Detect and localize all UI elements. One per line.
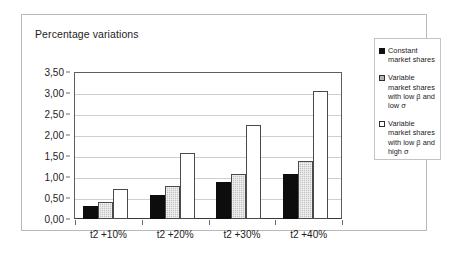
y-axis-tick-mark bbox=[66, 114, 70, 115]
bar bbox=[83, 206, 98, 219]
bar bbox=[298, 161, 313, 219]
chart-title: Percentage variations bbox=[35, 28, 139, 40]
bar bbox=[180, 153, 195, 219]
bar-group bbox=[275, 72, 342, 219]
legend-swatch-icon bbox=[379, 48, 385, 54]
x-axis-tick-label: t2 +40% bbox=[290, 229, 327, 240]
legend-item-label: Variable market shares with low β and lo… bbox=[388, 73, 436, 110]
y-axis-tick-mark bbox=[66, 72, 70, 73]
y-axis-tick-label: 1,50 bbox=[45, 151, 64, 162]
legend-swatch-icon bbox=[379, 75, 385, 81]
y-axis-tick-mark bbox=[66, 135, 70, 136]
bar bbox=[246, 125, 261, 220]
x-axis-tick-mark bbox=[342, 220, 343, 225]
bar bbox=[150, 195, 165, 219]
legend-item-label: Constant market shares bbox=[388, 46, 436, 64]
bar bbox=[113, 189, 128, 219]
bar bbox=[231, 174, 246, 219]
y-axis-tick-label: 2,50 bbox=[45, 109, 64, 120]
bar-group bbox=[75, 72, 142, 219]
y-axis-tick-label: 3,50 bbox=[45, 67, 64, 78]
bar bbox=[313, 91, 328, 219]
y-axis-tick-mark bbox=[66, 93, 70, 94]
x-axis-tick-mark bbox=[142, 220, 143, 225]
y-axis-tick-mark bbox=[66, 156, 70, 157]
x-axis-tick-mark bbox=[275, 220, 276, 225]
bar bbox=[283, 174, 298, 219]
bar bbox=[165, 186, 180, 219]
figure-frame: Percentage variations 0,000,501,001,502,… bbox=[21, 14, 427, 231]
legend-item: Variable market shares with low β and lo… bbox=[379, 73, 436, 110]
y-axis-tick-label: 0,00 bbox=[45, 214, 64, 225]
x-axis: t2 +10%t2 +20%t2 +30%t2 +40% bbox=[75, 220, 342, 244]
bar bbox=[216, 182, 231, 219]
y-axis-tick-mark bbox=[66, 198, 70, 199]
x-axis-tick-mark bbox=[75, 220, 76, 225]
bar-group bbox=[209, 72, 276, 219]
legend-swatch-icon bbox=[379, 121, 385, 127]
y-axis-tick-label: 2,00 bbox=[45, 130, 64, 141]
y-axis: 0,000,501,001,502,002,503,003,50 bbox=[22, 72, 70, 219]
y-axis-tick-label: 0,50 bbox=[45, 193, 64, 204]
bar bbox=[98, 202, 113, 219]
y-axis-tick-mark bbox=[66, 219, 70, 220]
y-axis-tick-mark bbox=[66, 177, 70, 178]
y-axis-tick-label: 3,00 bbox=[45, 88, 64, 99]
bar-group bbox=[142, 72, 209, 219]
x-axis-tick-label: t2 +20% bbox=[157, 229, 194, 240]
x-axis-tick-label: t2 +30% bbox=[223, 229, 260, 240]
x-axis-tick-label: t2 +10% bbox=[90, 229, 127, 240]
x-axis-tick-mark bbox=[209, 220, 210, 225]
legend-item: Constant market shares bbox=[379, 46, 436, 64]
legend-panel: Constant market sharesVariable market sh… bbox=[374, 38, 441, 160]
y-axis-tick-label: 1,00 bbox=[45, 172, 64, 183]
legend-item-label: Variable market shares with low β and hi… bbox=[388, 119, 436, 156]
legend-item: Variable market shares with low β and hi… bbox=[379, 119, 436, 156]
bars-layer bbox=[75, 72, 342, 219]
